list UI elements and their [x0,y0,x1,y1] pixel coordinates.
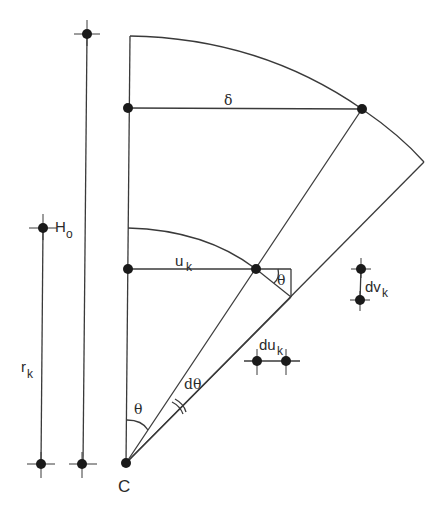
label-dtheta: dθ [184,376,201,392]
label-du-sub: k [277,344,284,358]
point-delta-end [357,104,367,114]
label-u: u [175,252,183,269]
point-center [121,458,131,468]
point-delta-start [123,103,133,113]
label-center: C [118,477,130,496]
rotation-deformation-diagram: H o r k [0,0,446,507]
label-theta-small: θ [277,272,285,288]
point-uk-end [251,264,261,274]
label-u-sub: k [186,260,193,274]
label-dv: dv [365,278,381,295]
label-r-sub: k [27,367,34,381]
dimension-H0 [69,20,100,478]
label-r: r [21,358,26,375]
point-uk-start [123,264,133,274]
label-dv-sub: k [382,286,389,300]
label-H-sub: o [66,227,73,241]
main-structure [126,36,424,463]
dimension-rk [27,214,57,478]
label-theta: θ [134,401,142,417]
label-delta: δ [224,92,232,108]
label-du: du [259,336,276,353]
label-H: H [55,218,66,235]
